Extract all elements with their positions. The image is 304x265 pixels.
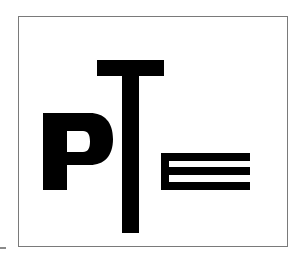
pte-logo xyxy=(0,0,304,265)
letter-p xyxy=(43,113,113,190)
letter-e xyxy=(161,153,250,190)
